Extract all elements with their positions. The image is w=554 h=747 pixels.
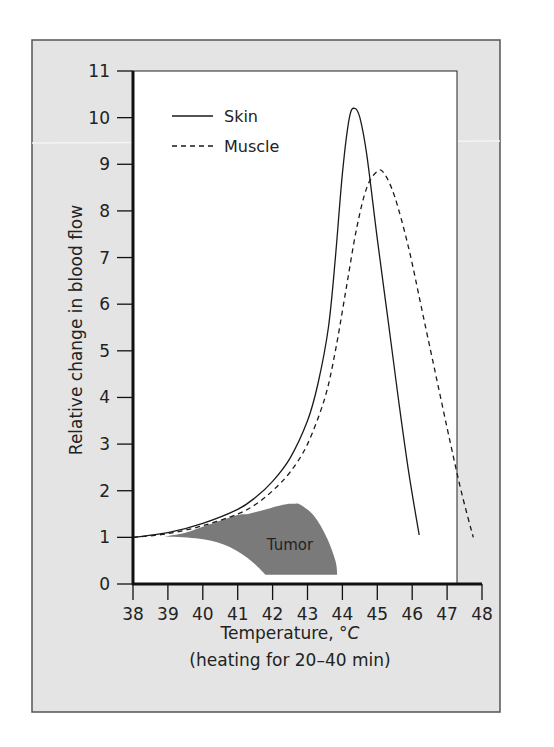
blood-flow-chart-figure: Tumor 01234567891011 3839404142434445464… — [0, 0, 554, 747]
x-tick-label: 47 — [436, 604, 458, 624]
x-axis-title-main: Temperature, — [220, 623, 340, 643]
y-tick-label: 1 — [99, 527, 110, 547]
x-tick-label: 44 — [332, 604, 354, 624]
x-tick-label: 39 — [157, 604, 179, 624]
y-tick-label: 4 — [99, 387, 110, 407]
y-tick-label: 3 — [99, 434, 110, 454]
y-tick-label: 7 — [99, 248, 110, 268]
y-tick-label: 8 — [99, 201, 110, 221]
x-tick-label: 48 — [471, 604, 493, 624]
x-tick-label: 46 — [401, 604, 423, 624]
y-tick-label: 5 — [99, 341, 110, 361]
legend-muscle-label: Muscle — [224, 137, 279, 156]
y-tick-label: 9 — [99, 154, 110, 174]
x-tick-label: 45 — [366, 604, 388, 624]
x-tick-label: 42 — [262, 604, 284, 624]
x-tick-label: 41 — [227, 604, 249, 624]
legend-skin-label: Skin — [224, 107, 258, 126]
y-axis-title: Relative change in blood flow — [66, 205, 86, 455]
x-axis-subtitle: (heating for 20–40 min) — [189, 650, 390, 670]
y-tick-label: 0 — [99, 574, 110, 594]
x-axis-title: Temperature, °C — [220, 623, 360, 643]
y-tick-label: 6 — [99, 294, 110, 314]
x-tick-label: 40 — [192, 604, 214, 624]
x-tick-label: 38 — [122, 604, 144, 624]
x-axis-title-unit: °C — [339, 623, 360, 643]
y-tick-label: 10 — [88, 108, 110, 128]
tumor-label: Tumor — [266, 536, 314, 554]
x-tick-label: 43 — [297, 604, 319, 624]
y-tick-label: 11 — [88, 61, 110, 81]
y-tick-label: 2 — [99, 481, 110, 501]
